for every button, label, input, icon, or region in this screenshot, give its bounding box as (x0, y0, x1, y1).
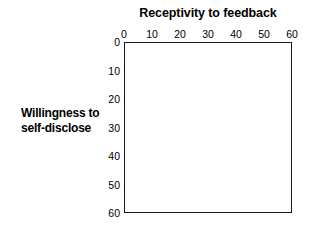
plot-area (124, 42, 292, 213)
y-tick-label: 0 (114, 36, 120, 48)
y-tick-label: 30 (108, 122, 120, 134)
chart-figure: Receptivity to feedback Willingness to s… (0, 0, 311, 227)
x-tick-label: 50 (258, 28, 270, 41)
x-tick-label: 30 (202, 28, 214, 41)
y-tick-label: 20 (108, 93, 120, 105)
y-tick-label: 40 (108, 150, 120, 162)
x-axis-tick-labels: 0102030405060 (124, 28, 292, 41)
x-tick-label: 0 (121, 28, 127, 41)
x-tick-label: 40 (230, 28, 242, 41)
y-tick-label: 60 (108, 207, 120, 219)
chart-title: Receptivity to feedback (124, 6, 292, 20)
x-tick-label: 20 (174, 28, 186, 41)
y-axis-tick-labels: 0102030405060 (96, 42, 120, 213)
y-tick-label: 50 (108, 179, 120, 191)
y-tick-label: 10 (108, 65, 120, 77)
x-tick-label: 10 (146, 28, 158, 41)
x-tick-label: 60 (286, 28, 298, 41)
